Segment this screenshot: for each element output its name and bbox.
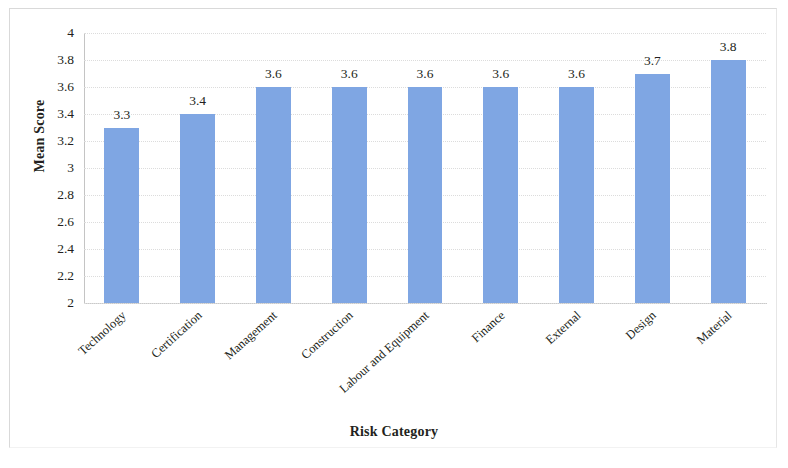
y-axis-tick-label: 3.6 [32, 80, 74, 94]
y-axis-tick-label: 3 [32, 161, 74, 175]
y-axis-tick-label: 3.8 [32, 53, 74, 67]
y-axis-tick-label: 2.6 [32, 215, 74, 229]
bar[interactable] [104, 128, 139, 304]
bar-slot: 3.6 [332, 33, 367, 303]
y-axis-tick-label: 3.4 [32, 107, 74, 121]
bar-slot: 3.6 [408, 33, 443, 303]
bar-value-label: 3.6 [392, 67, 459, 81]
y-axis-tick-label: 2.2 [32, 269, 74, 283]
bar[interactable] [332, 87, 367, 303]
bar-slot: 3.6 [483, 33, 518, 303]
x-axis-tick-label: Construction [124, 309, 355, 468]
bar[interactable] [256, 87, 291, 303]
bar-slot: 3.3 [104, 33, 139, 303]
bar-value-label: 3.6 [467, 67, 534, 81]
x-axis-tick-label: Management [48, 309, 279, 468]
x-axis-tick-label: External [352, 309, 583, 468]
bar-value-label: 3.7 [619, 54, 686, 68]
bar[interactable] [559, 87, 594, 303]
bar-value-label: 3.4 [164, 94, 231, 108]
bar-value-label: 3.6 [316, 67, 383, 81]
bar-slot: 3.4 [180, 33, 215, 303]
bar-value-label: 3.3 [88, 108, 155, 122]
x-axis-tick-label: Labour and Equipment [200, 309, 431, 468]
bar[interactable] [711, 60, 746, 303]
bar-value-label: 3.6 [240, 67, 307, 81]
bar[interactable] [483, 87, 518, 303]
y-axis-tick-label: 4 [32, 26, 74, 40]
y-axis-tick-label: 2.4 [32, 242, 74, 256]
x-axis-title: Risk Category [0, 424, 788, 440]
bar-chart-figure: Mean Score 43.83.63.43.232.82.62.42.22 3… [0, 0, 788, 468]
bar[interactable] [635, 74, 670, 304]
y-axis-tick-label: 2 [32, 296, 74, 310]
y-axis-tick-label: 3.2 [32, 134, 74, 148]
y-axis-tick-label: 2.8 [32, 188, 74, 202]
x-axis-tick-label: Material [503, 309, 734, 468]
bar[interactable] [408, 87, 443, 303]
bar-slot: 3.7 [635, 33, 670, 303]
bar-slot: 3.8 [711, 33, 746, 303]
x-axis-tick-label: Finance [276, 309, 507, 468]
bar-value-label: 3.8 [695, 40, 762, 54]
bar-slot: 3.6 [559, 33, 594, 303]
bar[interactable] [180, 114, 215, 303]
gridline [84, 303, 766, 304]
x-axis-tick-label: Design [427, 309, 658, 468]
bar-value-label: 3.6 [543, 67, 610, 81]
bar-slot: 3.6 [256, 33, 291, 303]
plot-area: 43.83.63.43.232.82.62.42.22 3.33.43.63.6… [84, 33, 766, 303]
